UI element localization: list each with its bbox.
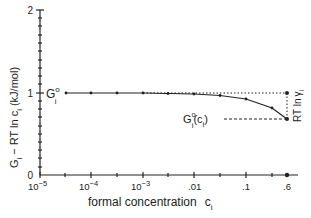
chart: 2 1 0 10−5 10−4 10−3 .01 .1 .6 formal co…	[0, 0, 311, 218]
data-points	[65, 91, 289, 121]
x-tick-0.1: .1	[242, 181, 250, 192]
y-tick-2: 2	[27, 5, 33, 16]
y-tick-1: 1	[27, 88, 33, 99]
x-tick-1e-5: 10−5	[28, 179, 47, 192]
y-axis-title: Gi − RT ln ci (kJ/mol)	[8, 67, 24, 168]
x-tick-labels: 10−5 10−4 10−3 .01 .1 .6	[28, 179, 291, 192]
y-axis	[36, 10, 44, 175]
x-tick-0.6: .6	[283, 181, 291, 192]
rt-ln-gamma-label: RT lnγi	[292, 89, 305, 122]
series-line	[66, 93, 287, 119]
gc-label: Goi(ci)	[183, 110, 208, 130]
x-tick-1e-3: 10−3	[131, 179, 150, 192]
x-tick-1e-4: 10−4	[79, 179, 98, 192]
x-tick-0.01: .01	[188, 181, 201, 192]
g0-label: Goi	[46, 85, 60, 106]
y-tick-0: 0	[27, 170, 33, 181]
x-axis	[40, 172, 298, 178]
x-axis-title: formal concentrationci	[88, 195, 213, 212]
x-axis-point	[285, 173, 289, 177]
